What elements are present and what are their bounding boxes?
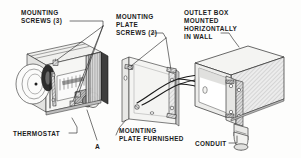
plate-screws-line3: SCREWS (2)	[116, 29, 157, 37]
conduit-line1: CONDUIT	[195, 140, 227, 147]
mounting-screws-line1: MOUNTING	[21, 9, 59, 16]
plate-furnished-line2: PLATE FURNISHED	[119, 135, 184, 142]
technical-diagram: MOUNTING SCREWS (3) MOUNTING PLATE SCREW…	[0, 0, 301, 158]
outlet-box-line4: IN WALL	[184, 33, 213, 40]
thermostat-mounting-screw-mid	[76, 92, 81, 97]
thermostat-mounting-screw-low	[70, 101, 75, 106]
mounting-screws-line2: SCREWS (3)	[21, 17, 62, 25]
plate-furnished-line1: MOUNTING	[119, 127, 157, 134]
thermostat-cover-edge	[101, 52, 108, 104]
thermostat-cover-face	[86, 52, 101, 105]
callout-a-text: A	[95, 143, 100, 150]
figure-root: MOUNTING SCREWS (3) MOUNTING PLATE SCREW…	[0, 0, 301, 158]
plate-screw-lower	[135, 105, 140, 110]
thermostat-line1: THERMOSTAT	[13, 130, 60, 137]
conduit-end	[234, 144, 248, 150]
plate-screws-line1: MOUNTING	[116, 13, 154, 20]
label-mounting-screws: MOUNTING SCREWS (3)	[21, 9, 62, 25]
outlet-box-line3: HORIZONTALLY	[184, 25, 238, 32]
plate-hole-left	[124, 76, 127, 80]
label-conduit: CONDUIT	[195, 140, 227, 147]
outlet-box-knockout	[203, 87, 207, 94]
outlet-box-line1: OUTLET BOX	[184, 9, 229, 16]
label-thermostat: THERMOSTAT	[13, 130, 60, 137]
label-callout-a: A	[95, 143, 100, 150]
plate-screws-line2: PLATE	[116, 21, 139, 28]
conduit-fitting	[234, 124, 248, 150]
outlet-box-line2: MOUNTED	[184, 17, 219, 24]
plate-hole-bottom	[150, 112, 154, 115]
